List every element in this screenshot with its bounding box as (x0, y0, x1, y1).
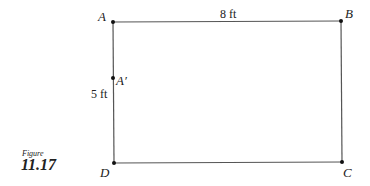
point-c (340, 160, 344, 164)
label-b: B (345, 7, 353, 20)
point-b (339, 19, 343, 23)
figure-number: 11.17 (21, 157, 56, 173)
edge-bc (341, 21, 342, 162)
point-a (111, 20, 115, 24)
label-d: D (100, 166, 109, 179)
point-a-prime (111, 76, 115, 80)
label-a: A (98, 10, 106, 23)
edge-cd (114, 162, 342, 163)
dimension-left: 5 ft (91, 88, 107, 100)
label-c: C (343, 166, 352, 179)
edge-ab (113, 21, 341, 22)
edge-da (113, 22, 114, 163)
dimension-top: 8 ft (220, 8, 236, 20)
point-d (112, 161, 116, 165)
label-a-prime: A′ (116, 74, 127, 87)
